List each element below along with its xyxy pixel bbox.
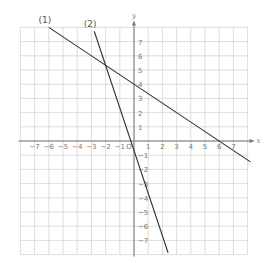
line-1 <box>49 27 251 161</box>
x-tick-label: 3 <box>174 143 178 151</box>
x-tick-label: 2 <box>160 143 164 151</box>
line-label-1: (1) <box>38 15 51 25</box>
x-tick-label: 4 <box>189 143 194 151</box>
axes: xy <box>18 12 260 256</box>
x-tick-label: −7 <box>29 143 39 151</box>
x-tick-label: −2 <box>100 143 110 151</box>
y-tick-label: 2 <box>138 110 142 118</box>
y-axis-arrow-icon <box>132 20 136 25</box>
y-tick-label: 7 <box>138 39 142 47</box>
x-tick-label: −5 <box>58 143 68 151</box>
plotted-lines <box>49 27 251 252</box>
x-tick-label: 1 <box>146 143 150 151</box>
y-tick-label: 3 <box>138 95 142 103</box>
y-tick-label: 6 <box>138 53 143 61</box>
y-tick-label: −6 <box>138 223 149 231</box>
coordinate-plane: xy −7−6−5−4−3−2−11234567−7−6−5−4−3−2−112… <box>0 0 266 263</box>
y-tick-label: 5 <box>138 67 142 75</box>
x-tick-label: −4 <box>72 143 83 151</box>
x-tick-label: −6 <box>44 143 55 151</box>
y-tick-label: −7 <box>138 237 148 245</box>
y-tick-label: 1 <box>138 124 142 132</box>
line-label-2: (2) <box>84 19 97 29</box>
y-tick-label: −5 <box>138 209 148 217</box>
x-tick-label: −1 <box>115 143 125 151</box>
x-tick-label: 6 <box>217 143 222 151</box>
x-axis-label: x <box>257 137 261 145</box>
y-axis-label: y <box>131 12 137 20</box>
y-tick-label: −4 <box>138 195 149 203</box>
x-axis-arrow-icon <box>250 139 255 143</box>
x-tick-label: 5 <box>203 143 207 151</box>
x-tick-label: −3 <box>86 143 96 151</box>
y-tick-label: −1 <box>138 152 148 160</box>
